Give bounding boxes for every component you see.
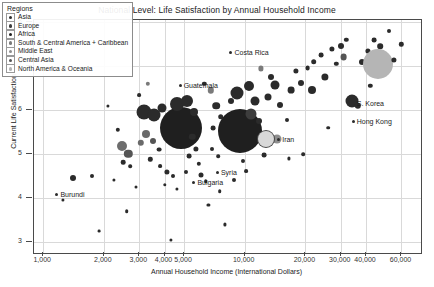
data-bubble[interactable] <box>363 49 393 79</box>
data-bubble[interactable] <box>156 147 161 152</box>
data-bubble[interactable] <box>142 130 150 138</box>
legend-dot-icon <box>9 16 12 19</box>
legend-item-label: Asia <box>18 14 31 21</box>
data-bubble[interactable] <box>329 46 334 51</box>
data-bubble[interactable] <box>244 81 254 91</box>
x-gridline <box>139 20 140 253</box>
data-bubble[interactable] <box>231 86 244 99</box>
data-bubble[interactable] <box>135 186 138 189</box>
legend-item-europe[interactable]: Europe <box>6 22 128 31</box>
data-bubble[interactable] <box>256 118 262 124</box>
data-bubble[interactable] <box>344 38 348 42</box>
data-bubble[interactable] <box>271 80 280 89</box>
data-bubble[interactable] <box>145 82 149 86</box>
y-tick-mark <box>26 153 32 154</box>
data-bubble[interactable] <box>250 97 259 106</box>
data-bubble[interactable] <box>164 169 169 174</box>
x-tick-label: 5,000 <box>174 256 192 263</box>
data-bubble[interactable] <box>327 126 331 130</box>
data-bubble[interactable] <box>169 238 172 241</box>
data-bubble[interactable] <box>98 230 101 233</box>
data-bubble[interactable] <box>70 175 76 181</box>
data-bubble[interactable] <box>391 57 396 62</box>
data-bubble[interactable] <box>241 159 245 163</box>
annotation-marker-icon <box>277 138 280 141</box>
data-bubble[interactable] <box>124 150 132 158</box>
data-bubble[interactable] <box>321 74 328 81</box>
data-bubble[interactable] <box>277 102 283 108</box>
legend-item-north-america-oceania[interactable]: North America & Oceania <box>6 65 128 74</box>
data-bubble[interactable] <box>121 160 126 165</box>
data-bubble[interactable] <box>399 42 403 46</box>
data-bubble[interactable] <box>288 87 295 94</box>
legend-item-africa[interactable]: Africa <box>6 30 128 39</box>
data-bubble[interactable] <box>163 183 166 186</box>
data-bubble[interactable] <box>138 140 144 146</box>
data-bubble[interactable] <box>113 178 116 181</box>
data-bubble[interactable] <box>193 146 198 151</box>
legend[interactable]: Regions AsiaEuropeAfricaSouth & Central … <box>2 2 133 77</box>
data-bubble[interactable] <box>61 199 64 202</box>
data-bubble[interactable] <box>319 53 324 58</box>
annotation-marker-icon <box>216 171 219 174</box>
legend-rows: AsiaEuropeAfricaSouth & Central America … <box>6 13 128 73</box>
data-bubble[interactable] <box>187 154 192 159</box>
data-bubble[interactable] <box>268 74 274 80</box>
legend-item-central-asia[interactable]: Central Asia <box>6 56 128 65</box>
annotation-label: Syria <box>221 169 237 176</box>
data-bubble[interactable] <box>217 154 221 158</box>
data-bubble[interactable] <box>181 95 193 107</box>
data-bubble[interactable] <box>171 174 175 178</box>
data-bubble[interactable] <box>211 125 216 130</box>
point-annotation: Iran <box>277 136 294 143</box>
data-bubble[interactable] <box>246 108 257 119</box>
data-bubble[interactable] <box>305 66 310 71</box>
data-bubble[interactable] <box>107 104 110 107</box>
data-bubble[interactable] <box>298 80 304 86</box>
data-bubble[interactable] <box>90 174 94 178</box>
legend-swatch-icon <box>6 64 15 73</box>
data-bubble[interactable] <box>207 203 210 206</box>
legend-item-south-central-america-caribbean[interactable]: South & Central America + Caribbean <box>6 39 128 48</box>
data-bubble[interactable] <box>125 209 129 213</box>
data-bubble[interactable] <box>232 178 236 182</box>
data-bubble[interactable] <box>308 86 316 94</box>
data-bubble[interactable] <box>287 157 290 160</box>
data-bubble[interactable] <box>196 162 200 166</box>
data-bubble[interactable] <box>338 43 344 49</box>
data-bubble[interactable] <box>228 98 234 104</box>
data-bubble[interactable] <box>387 29 391 33</box>
y-tick-mark <box>26 197 32 198</box>
data-bubble[interactable] <box>190 108 198 116</box>
data-bubble[interactable] <box>148 157 152 161</box>
point-annotation: Guatemala <box>179 82 218 89</box>
data-bubble[interactable] <box>128 165 132 169</box>
legend-item-asia[interactable]: Asia <box>6 13 128 22</box>
data-bubble[interactable] <box>264 93 271 100</box>
data-bubble[interactable] <box>116 128 120 132</box>
data-bubble[interactable] <box>150 138 156 144</box>
data-bubble[interactable] <box>285 118 289 122</box>
y-tick-mark <box>26 109 32 110</box>
data-bubble[interactable] <box>372 37 377 42</box>
data-bubble[interactable] <box>158 103 167 112</box>
data-bubble[interactable] <box>258 131 274 147</box>
data-bubble[interactable] <box>137 93 141 97</box>
data-bubble[interactable] <box>340 54 347 61</box>
data-bubble[interactable] <box>262 153 267 158</box>
data-bubble[interactable] <box>224 223 227 226</box>
data-bubble[interactable] <box>175 188 178 191</box>
legend-item-middle-east[interactable]: Middle East <box>6 47 128 56</box>
data-bubble[interactable] <box>158 164 162 168</box>
data-bubble[interactable] <box>368 84 372 88</box>
data-bubble[interactable] <box>294 68 299 73</box>
data-bubble[interactable] <box>311 59 317 65</box>
data-bubble[interactable] <box>210 147 214 151</box>
data-bubble[interactable] <box>199 173 204 178</box>
data-bubble[interactable] <box>218 190 222 194</box>
data-bubble[interactable] <box>184 170 188 174</box>
data-bubble[interactable] <box>258 66 263 71</box>
data-bubble[interactable] <box>301 152 305 156</box>
data-bubble[interactable] <box>212 102 220 110</box>
data-bubble[interactable] <box>245 169 249 173</box>
